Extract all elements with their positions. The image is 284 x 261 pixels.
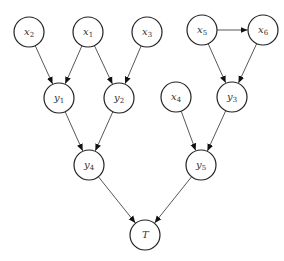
node-x2: x2 <box>14 17 44 47</box>
edge-x1-to-y2 <box>94 46 112 84</box>
edge-y3-to-y5 <box>207 111 225 151</box>
nodes-layer: x2x1x3x5x6y1y2x4y3y4y5T <box>14 15 278 250</box>
edge-y4-to-T <box>98 177 135 223</box>
node-x6: x6 <box>248 15 278 45</box>
node-y3: y3 <box>217 82 247 112</box>
node-T: T <box>130 220 160 250</box>
node-y2: y2 <box>104 83 134 113</box>
node-x3: x3 <box>132 17 162 47</box>
node-y1: y1 <box>44 83 74 113</box>
node-x4: x4 <box>161 82 191 112</box>
node-y4: y4 <box>74 150 104 180</box>
edge-y2-to-y4 <box>95 112 113 151</box>
edge-x4-to-y5 <box>181 111 195 150</box>
node-x1: x1 <box>73 17 103 47</box>
node-y5: y5 <box>186 150 216 180</box>
graph-svg: x2x1x3x5x6y1y2x4y3y4y5T <box>0 0 284 261</box>
dependency-graph: x2x1x3x5x6y1y2x4y3y4y5T <box>0 0 284 261</box>
edge-x2-to-y1 <box>35 46 52 84</box>
edge-x5-to-y3 <box>208 44 226 83</box>
edge-x1-to-y1 <box>65 46 82 84</box>
edge-y1-to-y4 <box>65 112 83 151</box>
edges-layer <box>35 30 256 223</box>
node-x5: x5 <box>187 15 217 45</box>
edge-x6-to-y3 <box>239 44 257 83</box>
edge-x3-to-y2 <box>125 46 141 84</box>
edge-y5-to-T <box>155 177 192 223</box>
